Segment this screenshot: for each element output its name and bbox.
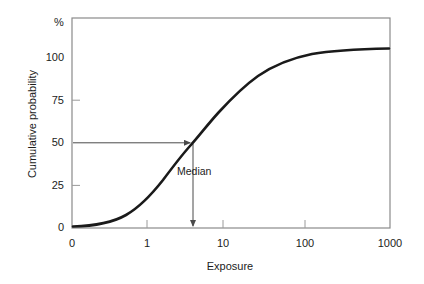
chart-figure: % 100 75 50 25 0 0 1 10 100 1000 Median … bbox=[0, 0, 424, 284]
y-tick-label-0: 0 bbox=[30, 222, 64, 233]
y-axis-title: Cumulative probability bbox=[26, 54, 38, 194]
cumulative-probability-curve bbox=[73, 49, 389, 227]
median-annotation-label: Median bbox=[177, 165, 211, 177]
x-tick-label-1: 1 bbox=[127, 238, 167, 249]
x-tick-label-0: 0 bbox=[52, 238, 92, 249]
x-tick-label-1000: 1000 bbox=[370, 238, 410, 249]
x-tick-label-10: 10 bbox=[203, 238, 243, 249]
y-axis-unit-label: % bbox=[54, 16, 64, 28]
x-axis-title: Exposure bbox=[180, 260, 280, 272]
x-tick-label-100: 100 bbox=[285, 238, 325, 249]
